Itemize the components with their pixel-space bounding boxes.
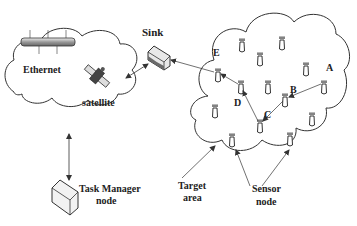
cloud-sink-link <box>126 64 148 78</box>
satellite-label: satellite <box>82 97 115 108</box>
sensor-node-label-line2: node <box>256 196 277 207</box>
network-diagram <box>0 0 357 226</box>
target-area-label-line2: area <box>183 192 202 203</box>
node-label-e: E <box>213 47 220 58</box>
task-manager-device-icon <box>52 180 78 215</box>
task-manager-label-line1: Task Manager <box>79 183 141 194</box>
node-label-b: B <box>290 84 297 95</box>
ethernet-label: Ethernet <box>23 64 61 75</box>
satellite-icon <box>82 59 115 91</box>
sink-device-icon <box>148 46 170 70</box>
node-label-d: D <box>234 97 241 108</box>
sink-label: Sink <box>142 27 163 38</box>
target-area-label-line1: Target <box>178 180 206 191</box>
node-label-a: A <box>326 62 333 73</box>
sensor-node-label-line1: Sensor <box>252 183 281 194</box>
task-manager-label-line2: node <box>96 195 117 206</box>
routing-path <box>171 60 321 121</box>
node-label-c: C <box>264 109 271 120</box>
ethernet-bus-icon <box>21 30 75 54</box>
